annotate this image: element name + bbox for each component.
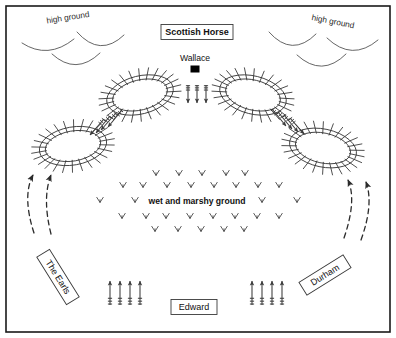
label-edward[interactable]: Edward: [171, 300, 217, 315]
battle-diagram: Wallace Scottish HorseEdwardThe EarlsDur…: [0, 0, 396, 338]
battle-map-svg: Wallace Scottish HorseEdwardThe EarlsDur…: [0, 0, 396, 338]
wallace-marker: [191, 66, 200, 73]
wallace-label: Wallace: [180, 53, 210, 63]
label-scottish-horse[interactable]: Scottish Horse: [161, 25, 233, 40]
label-scottish-horse-text: Scottish Horse: [165, 27, 229, 37]
label-edward-text: Edward: [179, 302, 210, 312]
marsh-ground-label: wet and marshy ground: [148, 196, 246, 206]
